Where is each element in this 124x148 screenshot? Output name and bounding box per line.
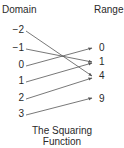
arrow-3-to-9 [26,98,92,115]
caption-line-1: The Squaring [0,125,124,136]
diagram-caption: The Squaring Function [0,125,124,147]
caption-line-2: Function [0,136,124,147]
arrow-neg2-to-4 [26,31,92,76]
arrow-1-to-1 [26,63,92,82]
arrow-2-to-4 [26,78,92,99]
